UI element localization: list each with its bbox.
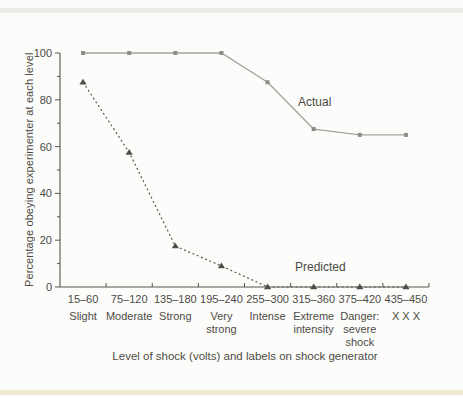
y-tick-label: 0 [46,281,52,293]
y-tick-label: 80 [40,94,52,106]
x-category-name-label: Extreme [293,310,334,322]
x-category-volts-label: 75–120 [111,293,148,305]
marker-actual [266,80,270,84]
x-axis-caption: Level of shock (volts) and labels on sho… [60,350,430,362]
marker-actual [358,133,362,137]
series-line-actual [83,53,406,135]
x-category-name-label: shock [345,336,374,348]
series-line-predicted [83,82,406,287]
x-category-name-label: Slight [69,310,97,322]
marker-actual [404,133,408,137]
marker-predicted [126,149,133,155]
marker-predicted [172,243,179,249]
y-tick-label: 20 [40,234,52,246]
x-category-name-label: severe [343,323,376,335]
x-category-volts-label: 15–60 [68,293,99,305]
marker-predicted [79,79,86,85]
x-category-volts-label: 255–300 [246,293,289,305]
x-category-name-label: Very [210,310,233,322]
y-tick-label: 40 [40,187,52,199]
x-category-volts-label: 135–180 [154,293,197,305]
x-category-volts-label: 315–360 [292,293,335,305]
marker-actual [81,51,85,55]
figure-container: 02040608010015–6075–120135–180195–240255… [0,0,463,398]
x-category-name-label: X X X [392,310,421,322]
x-category-name-label: Moderate [106,310,152,322]
chart-svg: 02040608010015–6075–120135–180195–240255… [0,0,463,398]
x-category-volts-label: 375–420 [338,293,381,305]
x-category-name-label: Danger: [340,310,379,322]
y-tick-label: 60 [40,141,52,153]
marker-actual [312,127,316,131]
x-category-name-label: Intense [250,310,286,322]
x-category-volts-label: 195–240 [200,293,243,305]
x-category-name-label: Strong [159,310,191,322]
marker-actual [219,51,223,55]
x-category-name-label: intensity [294,323,335,335]
x-category-volts-label: 435–450 [385,293,428,305]
y-axis-title: Percentage obeying experimenter at each … [21,50,37,290]
marker-actual [173,51,177,55]
x-category-name-label: strong [206,323,237,335]
marker-actual [127,51,131,55]
